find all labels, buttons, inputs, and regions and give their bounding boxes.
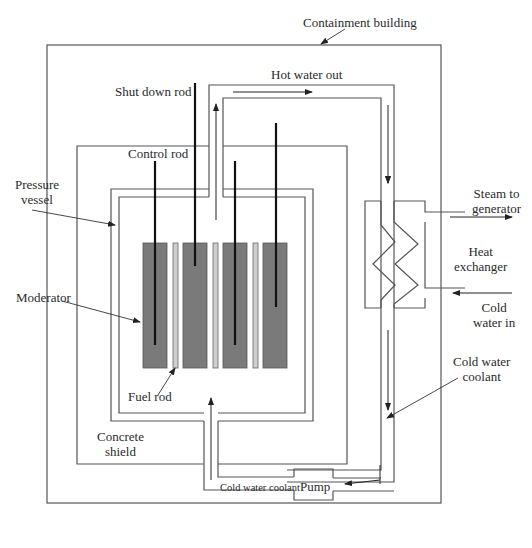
label-cold-water-coolant-bottom: Cold water coolant: [220, 480, 300, 495]
label-shut-down-rod: Shut down rod: [115, 84, 192, 99]
label-pressure-vessel: Pressure vessel: [15, 177, 59, 207]
label-moderator: Moderator: [16, 290, 71, 305]
fuel-rod: [213, 243, 218, 368]
label-steam-to-generator: Steam to generator: [472, 186, 521, 216]
label-fuel-rod: Fuel rod: [128, 389, 172, 404]
label-pump: Pump: [300, 479, 330, 494]
fuel-rod: [173, 243, 178, 368]
fuel-rod: [253, 243, 258, 368]
label-cold-water-coolant: Cold water coolant: [453, 354, 510, 384]
concrete-shield: [77, 146, 347, 464]
reactor-diagram: [0, 0, 532, 548]
label-concrete-shield: Concrete shield: [97, 429, 144, 459]
label-control-rod: Control rod: [128, 146, 188, 161]
label-cold-water-in: Cold water in: [473, 300, 515, 330]
label-heat-exchanger: Heat exchanger: [454, 244, 507, 274]
label-hot-water-out: Hot water out: [271, 67, 342, 82]
heat-exchanger-coil: [373, 201, 418, 308]
label-containment-building: Containment building: [303, 15, 417, 30]
